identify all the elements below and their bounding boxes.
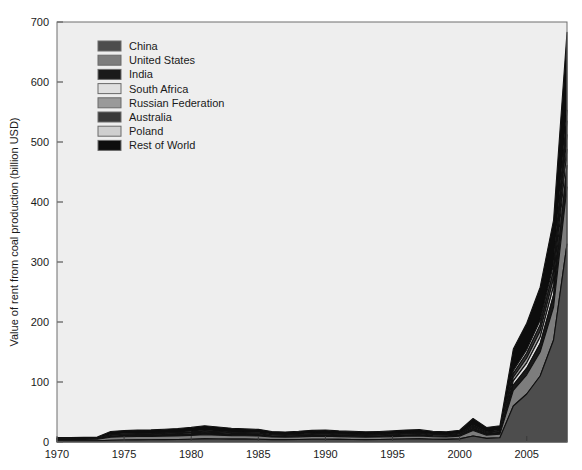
legend-swatch-rest-of-world — [98, 140, 121, 150]
chart-figure: 0100200300400500600700 19701975198019851… — [0, 0, 582, 470]
legend-label-rest-of-world: Rest of World — [129, 139, 195, 151]
legend-swatch-india — [98, 69, 121, 79]
y-tick-label: 0 — [43, 436, 49, 448]
legend-label-russian-federation: Russian Federation — [129, 97, 224, 109]
y-tick-label: 100 — [31, 376, 49, 388]
legend-swatch-australia — [98, 112, 121, 122]
x-tick-label: 2000 — [447, 448, 471, 460]
x-tick-label: 1995 — [380, 448, 404, 460]
y-tick-label: 500 — [31, 136, 49, 148]
legend-swatch-russian-federation — [98, 98, 121, 108]
legend-swatch-poland — [98, 126, 121, 136]
legend-label-india: India — [129, 68, 154, 80]
legend-label-australia: Australia — [129, 111, 173, 123]
y-tick-label: 600 — [31, 76, 49, 88]
x-tick-label: 1985 — [246, 448, 270, 460]
y-tick-label: 400 — [31, 196, 49, 208]
x-tick-label: 1980 — [179, 448, 203, 460]
legend-swatch-china — [98, 41, 121, 51]
x-tick-label: 1990 — [313, 448, 337, 460]
y-tick-label: 700 — [31, 16, 49, 28]
x-tick-label: 2005 — [514, 448, 538, 460]
x-tick-label: 1970 — [45, 448, 69, 460]
legend-label-poland: Poland — [129, 125, 163, 137]
legend-swatch-south-africa — [98, 84, 121, 94]
stacked-area-chart: 0100200300400500600700 19701975198019851… — [0, 0, 582, 470]
legend-label-china: China — [129, 40, 159, 52]
y-tick-label: 200 — [31, 316, 49, 328]
legend-label-united-states: United States — [129, 54, 196, 66]
x-tick-label: 1975 — [112, 448, 136, 460]
y-axis-title: Value of rent from coal production (bill… — [8, 117, 20, 346]
legend-label-south-africa: South Africa — [129, 83, 189, 95]
y-tick-label: 300 — [31, 256, 49, 268]
legend-swatch-united-states — [98, 55, 121, 65]
